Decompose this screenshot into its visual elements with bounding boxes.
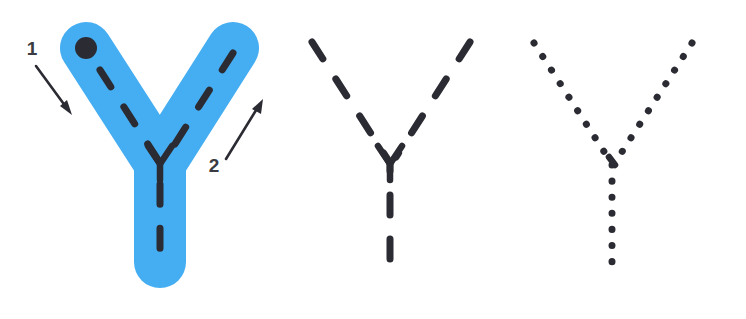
panel-guided-traced-letter: 1 2: [0, 0, 280, 319]
panel-dotted-letter: [510, 0, 746, 319]
stroke-2-arrow-icon: [226, 99, 263, 159]
letter-tracing-worksheet: 1 2: [0, 0, 746, 319]
panel-dashed-letter: [280, 0, 510, 319]
stroke-order-number-2: 2: [209, 155, 220, 176]
stroke-order-number-1: 1: [27, 38, 38, 59]
junction-letter-marker: [378, 146, 402, 180]
dashed-letter-path: [312, 42, 470, 262]
start-point-dot: [75, 37, 97, 59]
dotted-letter-path: [534, 43, 692, 262]
stroke-1-arrow-icon: [36, 66, 72, 115]
